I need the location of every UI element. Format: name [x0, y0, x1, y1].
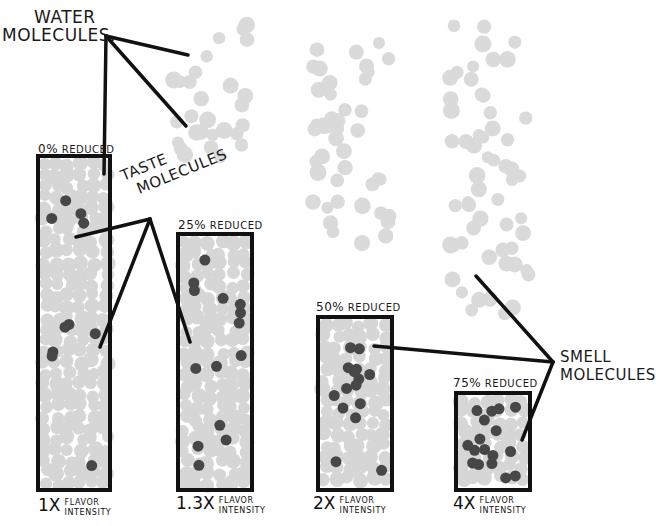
bar-0-reduced-label: 0% REDUCED: [38, 142, 115, 156]
bar-50-reduced-label: 50% REDUCED: [316, 300, 401, 314]
water-molecules-label: WATER MOLECULES.: [28, 8, 116, 44]
smell-molecules-label: SMELL MOLECULES: [560, 348, 656, 384]
bar-50-flavor-intensity: 2X FLAVORINTENSITY: [313, 494, 386, 516]
bar-25-reduced-label: 25% REDUCED: [178, 218, 263, 232]
bar-0-flavor-intensity: 1X FLAVORINTENSITY: [38, 496, 111, 518]
bar-25-flavor-intensity: 1.3X FLAVORINTENSITY: [176, 494, 266, 516]
bar-75-reduced-label: 75% REDUCED: [453, 376, 538, 390]
bar-75-flavor-intensity: 4X FLAVORINTENSITY: [453, 494, 526, 516]
